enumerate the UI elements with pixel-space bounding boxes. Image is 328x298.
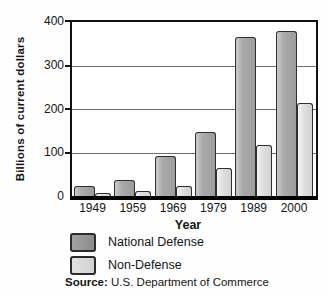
bar-national-defense-1989 [235, 37, 256, 196]
bar-non-defense-1989 [256, 145, 272, 196]
legend-item-national-defense: National Defense [70, 233, 204, 251]
x-tick-label-1959: 1959 [119, 201, 146, 215]
y-tick-label-300: 300 [32, 58, 64, 72]
legend-swatch-national-defense [70, 233, 96, 252]
x-tick-label-1979: 1979 [200, 201, 227, 215]
x-tick-label-1969: 1969 [160, 201, 187, 215]
bar-national-defense-1979 [195, 132, 216, 196]
x-axis-labels: 194919591969197919892000 [70, 201, 314, 216]
legend-label-non-defense: Non-Defense [108, 258, 182, 272]
bar-chart-figure: Billions of current dollars 400 300 200 … [0, 0, 328, 298]
plot-area [70, 20, 318, 200]
legend-item-non-defense: Non-Defense [70, 256, 204, 274]
source-label: Source: [65, 276, 108, 288]
x-tick-label-1989: 1989 [240, 201, 267, 215]
y-tick-label-400: 400 [32, 14, 64, 28]
source-note: Source: U.S. Department of Commerce [65, 276, 269, 288]
bar-non-defense-1969 [176, 186, 192, 196]
bar-national-defense-1959 [114, 180, 135, 196]
x-axis-title: Year [175, 218, 201, 232]
legend-swatch-non-defense [70, 256, 96, 275]
bar-national-defense-1949 [74, 186, 95, 196]
x-tick-label-1949: 1949 [79, 201, 106, 215]
bar-non-defense-1949 [95, 193, 111, 196]
y-axis-title: Billions of current dollars [14, 37, 26, 182]
x-tick-label-2000: 2000 [281, 201, 308, 215]
bar-non-defense-1959 [135, 191, 151, 196]
legend: National Defense Non-Defense [70, 233, 204, 279]
y-tick-label-0: 0 [32, 189, 64, 203]
source-text: U.S. Department of Commerce [108, 276, 269, 288]
bar-national-defense-2000 [276, 31, 297, 196]
y-tick-label-200: 200 [32, 102, 64, 116]
bar-non-defense-2000 [297, 103, 313, 196]
y-tick-label-100: 100 [32, 145, 64, 159]
legend-label-national-defense: National Defense [108, 235, 204, 249]
bar-national-defense-1969 [155, 156, 176, 196]
bar-non-defense-1979 [216, 168, 232, 196]
